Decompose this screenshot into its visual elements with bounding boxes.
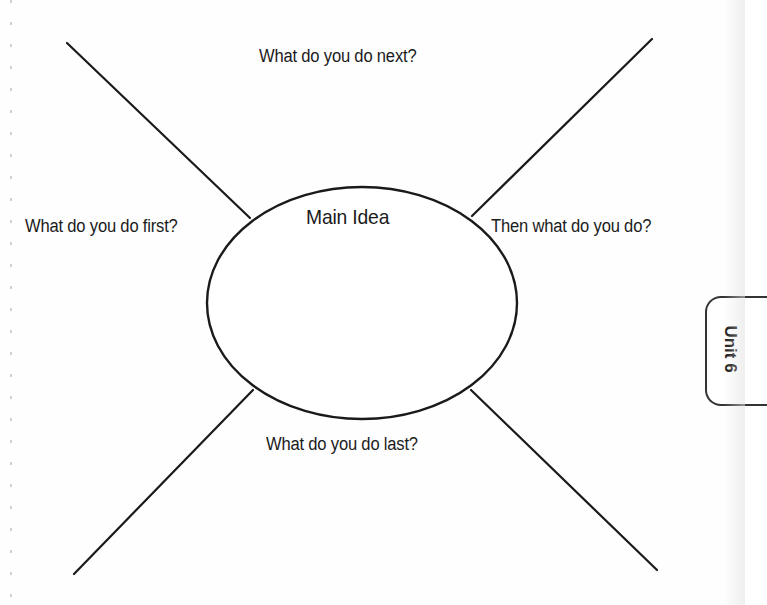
- prompt-last: What do you do last?: [266, 434, 418, 455]
- prompt-then: Then what do you do?: [491, 216, 651, 237]
- spoke-bottom-right: [471, 390, 657, 570]
- prompt-next: What do you do next?: [259, 46, 416, 67]
- main-idea-label: Main Idea: [306, 205, 389, 229]
- prompt-first: What do you do first?: [25, 216, 178, 237]
- spoke-bottom-left: [74, 390, 253, 574]
- spoke-top-left: [67, 43, 250, 218]
- page-edge-shadow: [723, 0, 745, 605]
- spoke-top-right: [472, 39, 652, 216]
